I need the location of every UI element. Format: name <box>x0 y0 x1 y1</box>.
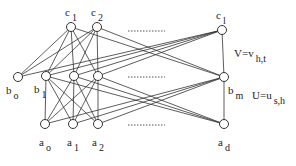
node-label-a0: ao <box>39 137 51 148</box>
node-label-a1: a1 <box>67 137 79 148</box>
node-a0 <box>41 120 50 129</box>
v-equation-main: V=v <box>234 47 254 59</box>
node-ad <box>220 120 229 129</box>
u-equation-sub: s,h <box>274 95 285 106</box>
node-a2 <box>94 120 103 129</box>
node-bm <box>220 73 229 82</box>
node-label-a2: a2 <box>92 137 104 148</box>
node-cl <box>218 26 227 35</box>
edge-c1-b0 <box>18 27 71 77</box>
node-label-c2: c2 <box>91 7 103 18</box>
node-a1 <box>69 120 78 129</box>
node-b2 <box>70 72 79 81</box>
v-equation-sub: h,t <box>256 53 266 64</box>
node-b1 <box>42 72 51 81</box>
edge-cl-b0 <box>18 30 222 77</box>
edge-cl-bm <box>222 30 224 77</box>
node-b0 <box>14 73 23 82</box>
node-label-bm: bm <box>228 85 243 96</box>
edge-b2-a0 <box>45 76 74 124</box>
node-label-b1: b1 <box>34 84 47 95</box>
node-c1 <box>67 23 76 32</box>
u-equation-label: U=us,h <box>252 90 285 101</box>
node-label-b0: bo <box>6 85 19 96</box>
node-c2 <box>93 23 102 32</box>
node-b3 <box>94 72 103 81</box>
node-label-cl: cl <box>216 10 226 21</box>
node-label-ad: ad <box>218 137 230 148</box>
u-equation-main: U=u <box>252 89 272 101</box>
v-equation-label: V=vh,t <box>234 48 266 59</box>
node-label-c1: c1 <box>65 7 77 18</box>
